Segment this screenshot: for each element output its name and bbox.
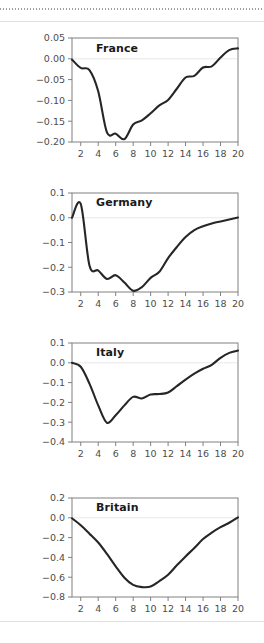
y-axis-tick-label: 0.0 xyxy=(50,512,65,523)
x-axis-tick-label: 10 xyxy=(145,148,157,159)
data-series-line xyxy=(72,517,238,587)
y-axis-tick-label: −0.05 xyxy=(36,74,65,85)
y-axis-tick-label: −0.2 xyxy=(42,397,65,408)
data-series-line xyxy=(72,202,238,291)
chart-panel-britain: 0.20.0−0.2−0.4−0.6−0.82468101214161820 B… xyxy=(0,490,264,625)
chart-title-germany: Germany xyxy=(96,196,153,209)
y-axis-tick-label: 0.1 xyxy=(50,337,65,348)
x-axis-tick-label: 14 xyxy=(180,603,192,614)
x-axis-tick-label: 8 xyxy=(130,298,136,309)
x-axis-tick-label: 10 xyxy=(145,298,157,309)
x-axis-tick-label: 16 xyxy=(197,603,209,614)
top-divider-rule xyxy=(0,21,264,22)
y-axis-tick-label: −0.3 xyxy=(42,417,65,428)
y-axis-tick-label: −0.1 xyxy=(42,377,65,388)
x-axis-tick-label: 18 xyxy=(214,298,226,309)
x-axis-tick-label: 20 xyxy=(232,148,244,159)
x-axis-tick-label: 6 xyxy=(113,448,119,459)
y-axis-tick-label: 0.1 xyxy=(50,187,65,198)
x-axis-tick-label: 20 xyxy=(232,448,244,459)
chart-panel-france: 0.050.00−0.05−0.10−0.15−0.20246810121416… xyxy=(0,30,264,170)
x-axis-tick-label: 14 xyxy=(180,148,192,159)
x-axis-tick-label: 2 xyxy=(78,148,84,159)
y-axis-tick-label: −0.3 xyxy=(42,286,65,297)
x-axis-tick-label: 14 xyxy=(180,298,192,309)
y-axis-tick-label: −0.8 xyxy=(42,591,65,602)
y-axis-tick-label: 0.00 xyxy=(44,53,65,64)
x-axis-tick-label: 20 xyxy=(232,298,244,309)
x-axis-tick-label: 4 xyxy=(95,298,101,309)
x-axis-tick-label: 4 xyxy=(95,603,101,614)
x-axis-tick-label: 10 xyxy=(145,448,157,459)
x-axis-tick-label: 8 xyxy=(130,448,136,459)
chart-title-italy: Italy xyxy=(96,346,124,359)
x-axis-tick-label: 12 xyxy=(162,603,174,614)
y-axis-tick-label: 0.2 xyxy=(50,492,65,503)
x-axis-tick-label: 12 xyxy=(162,448,174,459)
x-axis-tick-label: 20 xyxy=(232,603,244,614)
chart-panel-germany: 0.10.0−0.1−0.2−0.32468101214161820 Germa… xyxy=(0,185,264,320)
y-axis-tick-label: 0.05 xyxy=(44,32,65,43)
x-axis-tick-label: 4 xyxy=(95,448,101,459)
x-axis-tick-label: 14 xyxy=(180,448,192,459)
y-axis-tick-label: −0.2 xyxy=(42,532,65,543)
data-series-line xyxy=(72,48,238,139)
x-axis-tick-label: 16 xyxy=(197,148,209,159)
x-axis-tick-label: 2 xyxy=(78,298,84,309)
data-series-line xyxy=(72,351,238,424)
y-axis-tick-label: −0.4 xyxy=(42,436,65,447)
x-axis-tick-label: 6 xyxy=(113,148,119,159)
chart-title-britain: Britain xyxy=(96,501,139,514)
x-axis-tick-label: 6 xyxy=(113,603,119,614)
x-axis-tick-label: 18 xyxy=(214,148,226,159)
y-axis-tick-label: −0.20 xyxy=(36,136,65,147)
y-axis-tick-label: −0.6 xyxy=(42,572,65,583)
top-dotted-rule xyxy=(0,8,264,10)
y-axis-tick-label: −0.15 xyxy=(36,116,65,127)
x-axis-tick-label: 8 xyxy=(130,148,136,159)
y-axis-tick-label: −0.10 xyxy=(36,95,65,106)
x-axis-tick-label: 16 xyxy=(197,298,209,309)
x-axis-tick-label: 10 xyxy=(145,603,157,614)
x-axis-tick-label: 2 xyxy=(78,448,84,459)
chart-panel-italy: 0.10.0−0.1−0.2−0.3−0.42468101214161820 I… xyxy=(0,335,264,470)
x-axis-tick-label: 4 xyxy=(95,148,101,159)
y-axis-tick-label: −0.1 xyxy=(42,237,65,248)
chart-title-france: France xyxy=(96,42,138,55)
x-axis-tick-label: 8 xyxy=(130,603,136,614)
x-axis-tick-label: 2 xyxy=(78,603,84,614)
x-axis-tick-label: 18 xyxy=(214,603,226,614)
figure-page: 0.050.00−0.05−0.10−0.15−0.20246810121416… xyxy=(0,0,264,643)
x-axis-tick-label: 12 xyxy=(162,148,174,159)
x-axis-tick-label: 16 xyxy=(197,448,209,459)
x-axis-tick-label: 18 xyxy=(214,448,226,459)
y-axis-tick-label: −0.4 xyxy=(42,552,65,563)
x-axis-tick-label: 6 xyxy=(113,298,119,309)
y-axis-tick-label: 0.0 xyxy=(50,357,65,368)
y-axis-tick-label: 0.0 xyxy=(50,212,65,223)
x-axis-tick-label: 12 xyxy=(162,298,174,309)
italy-chart-svg: 0.10.0−0.1−0.2−0.3−0.42468101214161820 xyxy=(0,335,264,470)
y-axis-tick-label: −0.2 xyxy=(42,262,65,273)
